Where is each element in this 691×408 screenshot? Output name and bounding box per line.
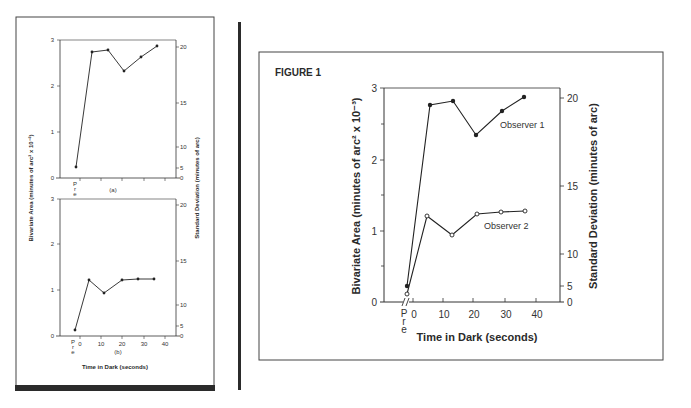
svg-text:15: 15 [180, 258, 187, 264]
svg-text:2: 2 [371, 155, 377, 166]
left-panel-ylabel-right: Standard Deviation (minutes of arc) [194, 137, 200, 238]
right-panel-xlabel: Time in Dark (seconds) [417, 331, 538, 343]
svg-text:3: 3 [371, 83, 377, 94]
svg-text:0: 0 [567, 297, 573, 308]
subplot-a-label: (a) [109, 187, 116, 193]
svg-text:15: 15 [180, 100, 187, 106]
svg-text:20: 20 [180, 202, 187, 208]
figure-title: FIGURE 1 [275, 67, 322, 78]
svg-text:30: 30 [500, 309, 512, 320]
svg-text:0: 0 [411, 309, 417, 320]
figure-canvas: 3 2 1 0 20 15 10 5 0 P r [0, 0, 691, 408]
svg-text:15: 15 [567, 181, 579, 192]
left-panel-xlabel: Time in Dark (seconds) [82, 364, 148, 370]
subplot-b-label: (b) [114, 349, 121, 355]
svg-text:5: 5 [567, 281, 573, 292]
svg-text:10: 10 [567, 249, 579, 260]
right-panel-frame [259, 52, 663, 360]
svg-text:40: 40 [531, 309, 543, 320]
svg-text:20: 20 [180, 44, 187, 50]
svg-text:10: 10 [180, 302, 187, 308]
svg-text:10: 10 [98, 341, 105, 347]
panel-divider [238, 22, 241, 390]
svg-text:1: 1 [371, 226, 377, 237]
svg-text:10: 10 [438, 309, 450, 320]
right-panel: FIGURE 1 32 10 [259, 52, 663, 360]
svg-text:20: 20 [119, 341, 126, 347]
left-panel-ylabel-left: Bivariate Area (minutes of arc² x 10⁻³) [28, 134, 34, 241]
svg-text:10: 10 [180, 144, 187, 150]
left-panel: 3 2 1 0 20 15 10 5 0 P r [15, 17, 215, 391]
observer-1-label: Observer 1 [500, 120, 545, 130]
right-panel-ylabel-right: Standard Deviation (minutes of arc) [587, 103, 599, 289]
right-panel-ylabel-left: Bivariate Area (minutes of arc² x 10⁻³) [350, 97, 362, 294]
svg-text:20: 20 [567, 93, 579, 104]
left-panel-bottom-bar [15, 385, 215, 391]
svg-text:e: e [401, 324, 407, 335]
svg-text:30: 30 [141, 341, 148, 347]
svg-text:0: 0 [371, 297, 377, 308]
svg-text:20: 20 [468, 309, 480, 320]
observer-2-label: Observer 2 [484, 221, 529, 231]
svg-text:40: 40 [162, 341, 169, 347]
